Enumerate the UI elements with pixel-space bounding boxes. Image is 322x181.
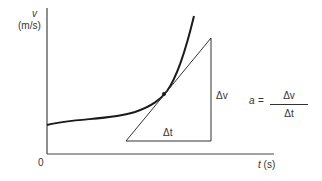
equation-numerator: Δv xyxy=(270,90,308,105)
y-axis-symbol: v xyxy=(32,9,37,19)
y-axis-unit: (m/s) xyxy=(18,21,41,31)
origin-label: 0 xyxy=(38,158,44,168)
tangent-triangle xyxy=(126,38,211,141)
delta-v-label: Δv xyxy=(216,91,228,101)
tangent-point xyxy=(162,92,166,96)
equation-denominator: Δt xyxy=(270,105,308,119)
equation-equals: = xyxy=(258,96,264,106)
x-axis-label: t (s) xyxy=(258,160,275,170)
equation-fraction: Δv Δt xyxy=(270,90,308,119)
x-axis-symbol: t xyxy=(258,159,261,170)
delta-t-label: Δt xyxy=(163,128,172,138)
x-axis-unit: (s) xyxy=(264,159,276,170)
velocity-curve xyxy=(47,16,194,125)
equation-lhs: a xyxy=(249,96,255,106)
